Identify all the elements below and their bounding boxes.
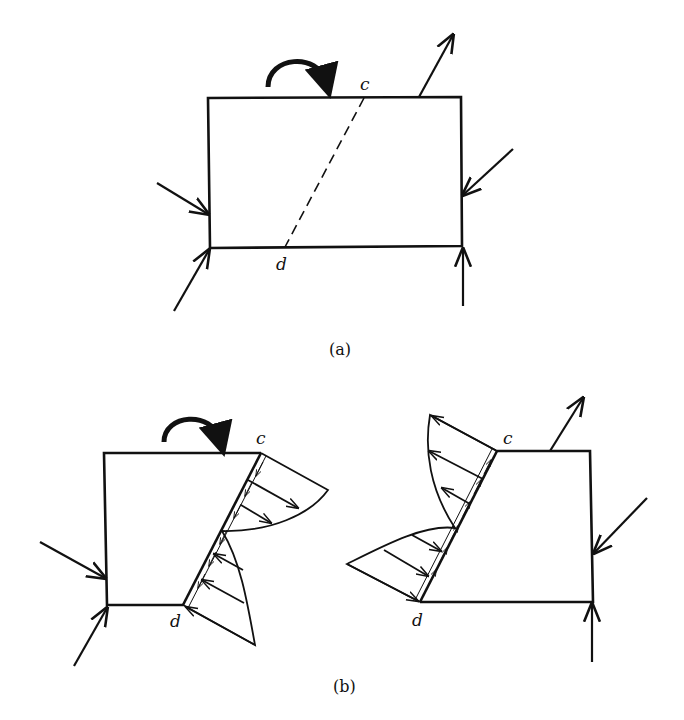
force-arrow-right <box>463 149 513 195</box>
cut-line-c-d <box>285 98 364 247</box>
right-stress-envelope <box>347 415 497 602</box>
left-stress-envelope <box>183 453 328 645</box>
part-a: c d (a) <box>157 35 513 359</box>
diagram-canvas: c d (a) c d <box>0 0 684 720</box>
force-arrow-right <box>594 498 647 553</box>
label-c: c <box>360 74 370 94</box>
caption-a: (a) <box>329 340 351 359</box>
force-arrow-left <box>157 183 208 214</box>
left-stress-arrows <box>186 480 298 645</box>
left-body-outline <box>104 453 261 605</box>
right-body-outline <box>420 451 593 602</box>
right-stress-arrows <box>347 416 497 601</box>
label-c: c <box>256 428 266 448</box>
body-rectangle <box>208 97 462 248</box>
moment-arrow-icon <box>268 62 326 87</box>
force-arrow-bottom-left <box>174 250 209 311</box>
label-d: d <box>276 254 287 274</box>
force-arrow-top-right <box>550 398 583 451</box>
label-d: d <box>412 610 423 630</box>
label-d: d <box>170 611 181 631</box>
force-arrow-left <box>40 542 105 578</box>
part-b-left-piece: c d <box>40 419 328 666</box>
force-arrow-top-right <box>419 35 453 97</box>
moment-arrow-icon <box>164 419 220 442</box>
force-arrow-bottom-left <box>74 608 107 666</box>
part-b-right-piece: c d <box>347 398 647 662</box>
label-c: c <box>503 428 513 448</box>
caption-b: (b) <box>333 677 356 696</box>
